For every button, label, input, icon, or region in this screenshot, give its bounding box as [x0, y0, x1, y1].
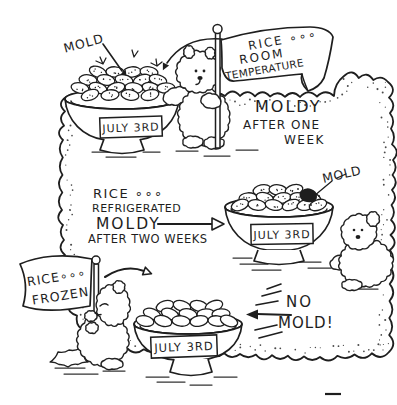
result-no: NO	[286, 293, 313, 311]
caption-refrigerated: REFRIGERATED	[92, 202, 181, 215]
result-after-one: AFTER ONE	[243, 118, 320, 132]
room-temp-flag: RICE ∘∘∘ ROOM TEMPERATURE	[221, 27, 333, 91]
flag-pole	[216, 33, 221, 148]
no-mold-arrow-line	[257, 314, 291, 315]
result-mold: MOLD!	[278, 314, 334, 332]
rice-mold-illustration: JULY 3RD MOLD RICE ∘∘∘ REFRIGERATED MOLD…	[0, 0, 397, 405]
bowl-foot	[170, 359, 212, 376]
caption-after-two-weeks: AFTER TWO WEEKS	[88, 232, 208, 246]
frozen-bowl: JULY 3RD	[134, 298, 242, 375]
illustration-canvas: JULY 3RD MOLD RICE ∘∘∘ REFRIGERATED MOLD…	[0, 0, 397, 405]
mold-callout-room-temp: MOLD	[62, 30, 106, 55]
bowl-date-plaque: JULY 3RD	[251, 223, 313, 244]
bowl-date-text: JULY 3RD	[101, 121, 160, 136]
bowl-date-text: JULY 3RD	[153, 339, 214, 355]
bowl-foot	[100, 139, 144, 154]
bowl-foot	[254, 250, 304, 265]
flag-pole-ball	[92, 256, 100, 264]
flag-pole-ball	[213, 25, 222, 34]
critter-nose	[356, 235, 361, 239]
flag-to-bowl-arrowhead	[163, 62, 169, 70]
result-moldy: MOLDY	[255, 97, 322, 116]
mold-tufts	[96, 50, 162, 66]
critter-eye	[361, 229, 364, 232]
bowl-date-plaque: JULY 3RD	[100, 116, 163, 138]
critter-eye	[195, 70, 198, 73]
critter-eye	[353, 229, 356, 232]
caption-moldy: MOLDY	[96, 215, 161, 233]
critter-eye	[203, 70, 206, 73]
frozen-flag: RICE∘∘∘ FROZEN	[20, 256, 92, 310]
caption-rice: RICE ∘∘∘	[93, 186, 164, 201]
bowl-date-text: JULY 3RD	[252, 228, 311, 242]
bowl-date-plaque: JULY 3RD	[151, 335, 218, 358]
result-week: WEEK	[284, 133, 325, 147]
